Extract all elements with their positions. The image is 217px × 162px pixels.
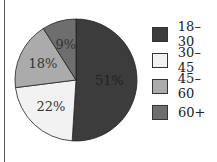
legend-label: 60+ [178,105,205,120]
slice-label: 18% [28,56,57,71]
legend-swatch [152,79,168,94]
legend-item-45-60: 45–60 [152,79,217,93]
legend-swatch [152,105,168,120]
legend-label: 45–60 [178,71,217,101]
slice-label: 51% [95,73,124,88]
legend: 18–30 30–45 45–60 60+ [152,27,217,131]
pie-chart: 51%22%18%9% [0,0,150,162]
legend-item-30-45: 30–45 [152,53,217,67]
legend-swatch [152,27,168,42]
legend-swatch [152,53,168,68]
legend-item-18-30: 18–30 [152,27,217,41]
slice-label: 22% [36,99,65,114]
legend-item-60-plus: 60+ [152,105,217,119]
slice-label: 9% [55,37,76,52]
